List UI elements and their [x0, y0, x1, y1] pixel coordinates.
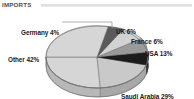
section-header: IMPORTS: [0, 0, 194, 11]
pie-slice-other: [46, 57, 100, 88]
pie-label-other: Other 42%: [8, 56, 39, 64]
pie-label-usa: USA 13%: [145, 50, 172, 58]
pie-label-germany: Germany 4%: [21, 29, 59, 37]
pie-label-france: France 6%: [131, 38, 163, 46]
pie-chart: Germany 4% UK 6% France 6% USA 13% Saudi…: [0, 11, 194, 99]
imports-pie-figure: IMPORTS: [0, 0, 194, 99]
page-title: IMPORTS: [2, 1, 32, 9]
pie-label-saudi-arabia: Saudi Arabia 29%: [121, 93, 174, 99]
pie-label-uk: UK 6%: [116, 28, 136, 36]
header-divider: [41, 4, 192, 7]
